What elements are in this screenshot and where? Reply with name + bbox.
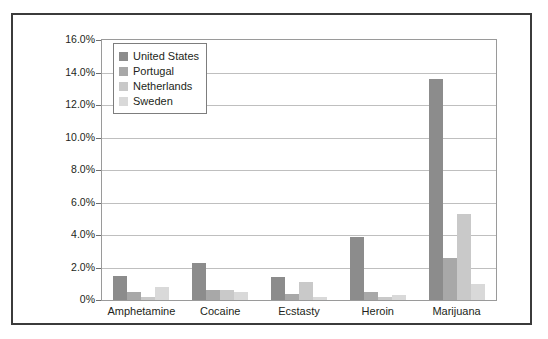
legend-label: Sweden	[133, 95, 173, 107]
bar-group	[417, 40, 496, 300]
bar	[192, 263, 206, 300]
bar	[271, 277, 285, 300]
legend-swatch-icon	[119, 97, 128, 106]
y-tick-label: 8.0%	[71, 164, 95, 175]
bar	[113, 276, 127, 300]
legend-item: Portugal	[119, 64, 199, 78]
y-tick-mark	[96, 203, 101, 204]
y-tick-label: 10.0%	[65, 132, 95, 143]
bar	[471, 284, 485, 300]
bar	[141, 297, 155, 300]
y-tick-label: 6.0%	[71, 197, 95, 208]
bar-group	[260, 40, 339, 300]
y-tick-label: 16.0%	[65, 34, 95, 45]
y-tick-mark	[96, 138, 101, 139]
bar	[299, 282, 313, 300]
legend-item: United States	[119, 49, 199, 63]
bar	[443, 258, 457, 300]
y-tick-mark	[96, 170, 101, 171]
y-tick-label: 0%	[80, 294, 95, 305]
legend-swatch-icon	[119, 67, 128, 76]
x-tick-label: Heroin	[338, 305, 417, 317]
x-tick-label: Marijuana	[417, 305, 496, 317]
bar	[206, 290, 220, 300]
x-tick-label: Ecstasty	[260, 305, 339, 317]
bar	[127, 292, 141, 300]
y-tick-label: 14.0%	[65, 67, 95, 78]
bar	[457, 214, 471, 300]
bar	[313, 297, 327, 300]
chart-legend: United StatesPortugalNetherlandsSweden	[113, 43, 207, 114]
y-tick-mark	[96, 300, 101, 301]
y-tick-mark	[96, 40, 101, 41]
y-tick-label: 12.0%	[65, 99, 95, 110]
bar	[285, 294, 299, 301]
bar	[378, 297, 392, 300]
legend-label: Netherlands	[133, 80, 192, 92]
y-tick-mark	[96, 235, 101, 236]
legend-label: United States	[133, 50, 199, 62]
bar	[429, 79, 443, 300]
y-tick-mark	[96, 268, 101, 269]
x-tick-label: Amphetamine	[102, 305, 181, 317]
bar	[350, 237, 364, 300]
bar-group	[338, 40, 417, 300]
bar	[220, 290, 234, 300]
bar	[155, 287, 169, 300]
legend-swatch-icon	[119, 52, 128, 61]
x-tick-label: Cocaine	[181, 305, 260, 317]
bar	[234, 292, 248, 300]
legend-swatch-icon	[119, 82, 128, 91]
y-tick-label: 2.0%	[71, 262, 95, 273]
legend-item: Netherlands	[119, 79, 199, 93]
y-tick-mark	[96, 105, 101, 106]
y-tick-mark	[96, 73, 101, 74]
chart-figure: 16.0%14.0%12.0%10.0%8.0%6.0%4.0%2.0%0% U…	[0, 0, 548, 339]
y-axis-labels: 16.0%14.0%12.0%10.0%8.0%6.0%4.0%2.0%0%	[41, 39, 95, 301]
bar	[364, 292, 378, 300]
bar	[392, 295, 406, 300]
y-tick-label: 4.0%	[71, 229, 95, 240]
legend-label: Portugal	[133, 65, 174, 77]
legend-item: Sweden	[119, 94, 199, 108]
